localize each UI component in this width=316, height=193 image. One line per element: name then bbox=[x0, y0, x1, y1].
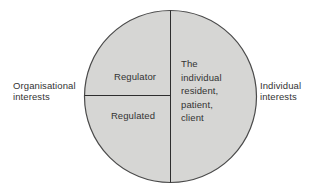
right-half-line-2: individual bbox=[181, 71, 251, 85]
right-half-line-1: The bbox=[181, 57, 251, 71]
organisational-interests-label: Organisational interests bbox=[13, 80, 83, 102]
individual-resident-patient-client-label: The individual resident, patient, client bbox=[181, 57, 251, 125]
interests-diagram: Organisational interests Individual inte… bbox=[0, 0, 316, 193]
organisational-interests-line-1: Organisational bbox=[13, 80, 83, 91]
regulated-label: Regulated bbox=[102, 110, 164, 121]
right-half-line-5: client bbox=[181, 111, 251, 125]
organisational-interests-line-2: interests bbox=[13, 91, 83, 102]
right-half-line-3: resident, bbox=[181, 84, 251, 98]
individual-interests-line-1: Individual bbox=[260, 80, 312, 91]
individual-interests-line-2: interests bbox=[260, 91, 312, 102]
right-half-line-4: patient, bbox=[181, 98, 251, 112]
regulator-label: Regulator bbox=[104, 71, 166, 82]
individual-interests-label: Individual interests bbox=[260, 80, 312, 102]
